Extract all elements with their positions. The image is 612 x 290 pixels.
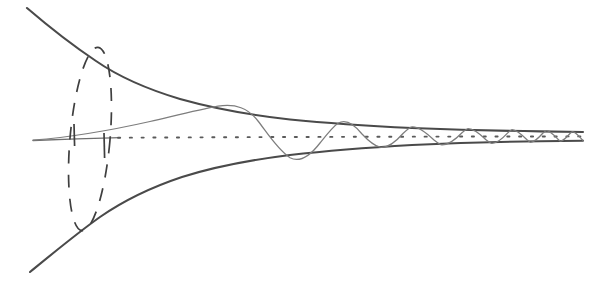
- oscillating-wave-curve: [33, 105, 583, 159]
- axis-tick-left: [74, 124, 75, 146]
- upper-envelope-curve: [27, 8, 583, 132]
- axis-dotted-segment: [118, 136, 583, 137]
- figure-canvas: [0, 0, 612, 290]
- lower-envelope-curve: [30, 141, 583, 272]
- figure-container: [0, 0, 612, 290]
- axis-tick-right: [104, 133, 105, 158]
